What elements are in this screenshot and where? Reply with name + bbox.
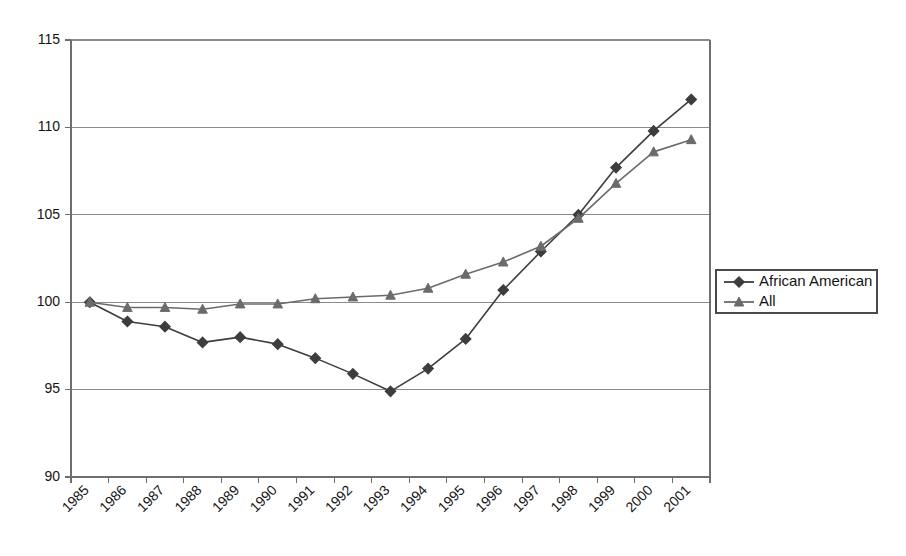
y-tick-label: 115 <box>38 31 61 47</box>
x-tick-label: 1992 <box>322 482 355 515</box>
y-tick-label: 110 <box>38 118 61 134</box>
y-axis-tick-labels: 1151101051009590 <box>37 31 61 484</box>
legend-label[interactable]: All <box>759 292 776 309</box>
series-1 <box>85 94 697 396</box>
x-tick-label: 2000 <box>622 482 655 515</box>
x-tick-label: 2001 <box>660 482 693 515</box>
data-series <box>85 94 697 396</box>
x-tick-label: 1998 <box>547 482 580 515</box>
legend-label[interactable]: African American <box>759 272 872 289</box>
data-point-marker <box>273 339 283 349</box>
x-tick-label: 1988 <box>171 482 204 515</box>
series-line <box>90 140 691 310</box>
x-tick-label: 1987 <box>134 482 167 515</box>
x-tick-label: 1986 <box>96 482 129 515</box>
x-tick-label: 1985 <box>59 482 92 515</box>
gridlines <box>71 40 710 477</box>
data-point-marker <box>499 257 509 266</box>
x-tick-label: 1996 <box>472 482 505 515</box>
data-point-marker <box>160 321 170 331</box>
chart-container: 1151101051009590 19851986198719881989199… <box>0 0 906 556</box>
data-point-marker <box>385 386 395 396</box>
chart-legend[interactable]: African AmericanAll <box>716 270 877 313</box>
chart-axes <box>65 40 710 483</box>
y-tick-label: 90 <box>44 468 60 484</box>
x-tick-label: 1999 <box>585 482 618 515</box>
data-point-marker <box>122 316 132 326</box>
series-line <box>90 99 691 391</box>
y-tick-label: 105 <box>37 206 61 222</box>
y-tick-label: 100 <box>37 293 61 309</box>
x-tick-label: 1993 <box>359 482 392 515</box>
data-point-marker <box>235 332 245 342</box>
x-tick-label: 1995 <box>434 482 467 515</box>
x-tick-label: 1991 <box>284 482 317 515</box>
y-tick-label: 95 <box>44 380 60 396</box>
line-chart: 1151101051009590 19851986198719881989199… <box>0 0 906 556</box>
x-tick-label: 1989 <box>209 482 242 515</box>
x-tick-label: 1997 <box>510 482 543 515</box>
data-point-marker <box>536 241 546 250</box>
series-2 <box>85 135 696 314</box>
data-point-marker <box>310 353 320 363</box>
x-tick-label: 1994 <box>397 482 430 515</box>
data-point-marker <box>197 337 207 347</box>
data-point-marker <box>686 135 696 144</box>
x-axis-tick-labels: 1985198619871988198919901991199219931994… <box>59 482 694 515</box>
x-tick-label: 1990 <box>247 482 280 515</box>
data-point-marker <box>348 369 358 379</box>
